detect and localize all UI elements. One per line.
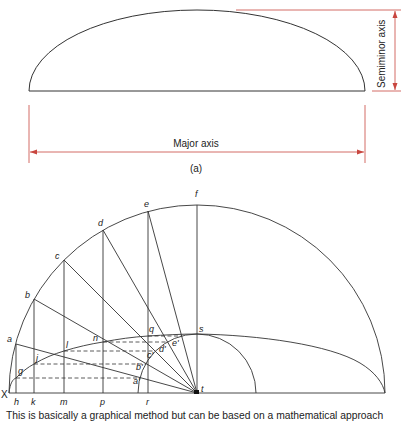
- ellipse-construction-diagram: Semiminor axis Major axis (a): [0, 0, 403, 431]
- label-e-prime: e': [172, 338, 179, 348]
- major-axis-label: Major axis: [173, 138, 219, 149]
- label-a: a: [7, 334, 12, 344]
- centre-point-t: [194, 390, 199, 394]
- label-c-prime: c': [147, 350, 154, 360]
- label-c: c: [55, 251, 60, 261]
- label-k: k: [31, 397, 36, 407]
- inner-circle-arc-right: [197, 334, 256, 393]
- label-h: h: [14, 397, 19, 407]
- label-d-prime: d': [159, 344, 166, 354]
- label-n: n: [93, 333, 98, 343]
- label-X: X: [1, 389, 8, 400]
- label-b: b: [25, 290, 30, 300]
- label-t: t: [201, 384, 204, 394]
- label-r: r: [146, 397, 150, 407]
- figure-b: [9, 205, 385, 394]
- label-b-prime: b': [136, 362, 143, 372]
- label-l: l: [66, 340, 69, 350]
- figure-caption: This is basically a graphical method but…: [6, 410, 403, 421]
- label-p: p: [99, 397, 105, 407]
- label-e: e: [144, 199, 149, 209]
- label-a-prime: a': [133, 376, 140, 386]
- label-g: g: [18, 366, 23, 376]
- label-d: d: [98, 218, 104, 228]
- label-q: q: [149, 324, 154, 334]
- semi-ellipse-outline: [29, 10, 365, 91]
- label-s: s: [199, 324, 204, 334]
- label-m: m: [60, 397, 68, 407]
- figure-a: Semiminor axis Major axis (a): [29, 10, 401, 174]
- panel-label-a: (a): [190, 163, 202, 174]
- label-f: f: [195, 189, 199, 199]
- semiminor-axis-label: Semiminor axis: [376, 20, 387, 88]
